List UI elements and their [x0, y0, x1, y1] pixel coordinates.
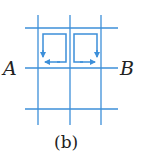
label-a: A [3, 57, 17, 79]
left-loop [43, 34, 66, 62]
label-b: B [120, 57, 134, 79]
grid-lines [25, 15, 118, 125]
figure-caption: (b) [54, 132, 78, 152]
right-loop [74, 34, 97, 62]
